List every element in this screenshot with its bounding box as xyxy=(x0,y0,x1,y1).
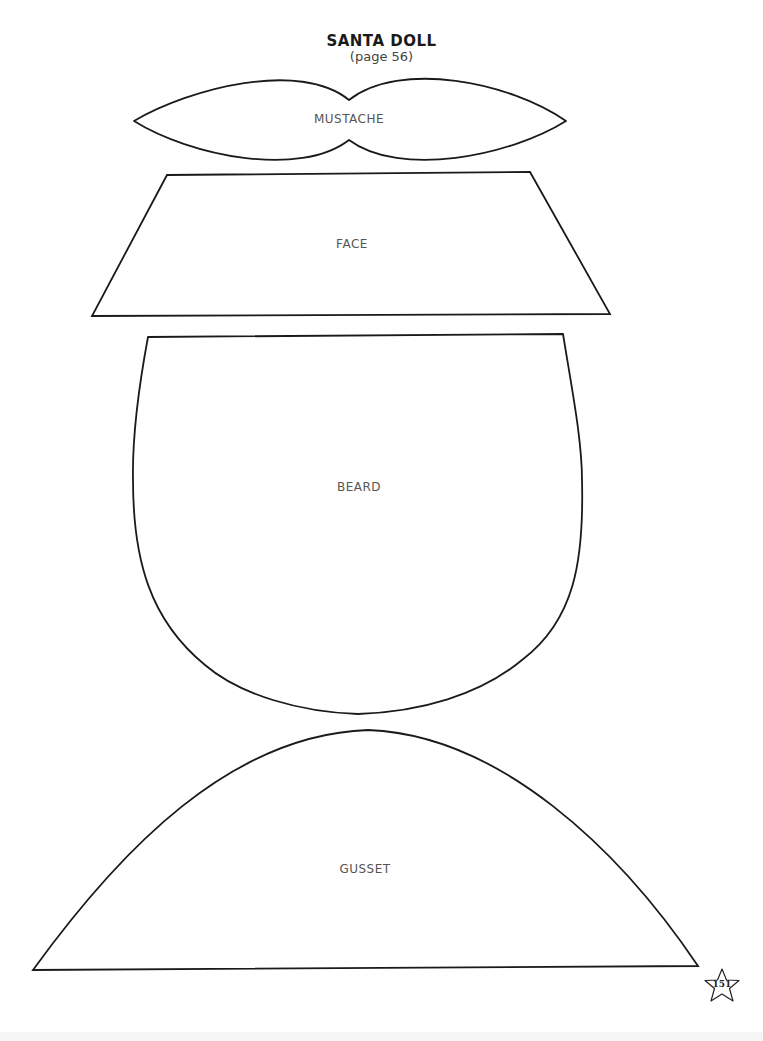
beard-outline xyxy=(133,334,582,714)
face-label: FACE xyxy=(336,237,368,251)
mustache-label: MUSTACHE xyxy=(314,112,384,126)
pattern-pieces-drawing xyxy=(0,0,763,1041)
beard-label: BEARD xyxy=(337,480,381,494)
pattern-page: SANTA DOLL (page 56) MUSTACHE FACE BEARD… xyxy=(0,0,763,1041)
page-number: 151 xyxy=(702,979,742,989)
scan-edge xyxy=(0,1032,763,1041)
gusset-label: GUSSET xyxy=(339,862,390,876)
page-number-badge: 151 xyxy=(702,966,742,1006)
gusset-outline xyxy=(33,730,698,970)
